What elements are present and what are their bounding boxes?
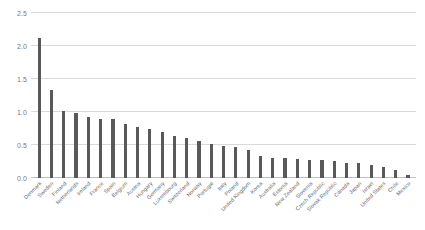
bar[interactable] <box>259 156 262 178</box>
bar-slot <box>316 13 328 178</box>
bar-slot <box>267 13 279 178</box>
bar[interactable] <box>87 117 90 178</box>
x-label-slot: Mexico <box>402 179 414 230</box>
bar-slot <box>205 13 217 178</box>
bar[interactable] <box>222 146 225 178</box>
bar[interactable] <box>406 175 409 178</box>
y-axis-tick-label: 0.5 <box>17 142 27 149</box>
bar[interactable] <box>124 124 127 178</box>
bar-slot <box>144 13 156 178</box>
y-axis-tick-label: 1.0 <box>17 109 27 116</box>
y-axis-tick-label: 1.5 <box>17 76 27 83</box>
bar-slot <box>94 13 106 178</box>
bar-slot <box>340 13 352 178</box>
bar-slot <box>58 13 70 178</box>
bar[interactable] <box>247 150 250 178</box>
bar[interactable] <box>136 127 139 178</box>
bar-slot <box>230 13 242 178</box>
bar[interactable] <box>148 129 151 179</box>
bar[interactable] <box>173 136 176 178</box>
bar-slot <box>242 13 254 178</box>
bar-slot <box>377 13 389 178</box>
bar[interactable] <box>271 158 274 178</box>
bar[interactable] <box>185 138 188 178</box>
bar-slot <box>82 13 94 178</box>
bar-slot <box>70 13 82 178</box>
bar[interactable] <box>62 111 65 178</box>
bar-slot <box>291 13 303 178</box>
bar-slot <box>328 13 340 178</box>
bar[interactable] <box>38 38 41 178</box>
bar-slot <box>156 13 168 178</box>
bar[interactable] <box>50 90 53 178</box>
bar[interactable] <box>320 160 323 178</box>
bar[interactable] <box>296 159 299 178</box>
bar[interactable] <box>308 160 311 178</box>
bar-slot <box>217 13 229 178</box>
bar[interactable] <box>333 161 336 178</box>
bar-slot <box>279 13 291 178</box>
x-axis-labels: DenmarkSwedenFinlandNetherlandsIrelandFr… <box>31 179 416 230</box>
bar-slot <box>353 13 365 178</box>
bar[interactable] <box>111 119 114 178</box>
plot-area <box>31 13 416 178</box>
bar-slot <box>402 13 414 178</box>
bar[interactable] <box>74 113 77 178</box>
bar-slot <box>181 13 193 178</box>
bar-slot <box>254 13 266 178</box>
bar[interactable] <box>382 167 385 178</box>
bar[interactable] <box>99 119 102 178</box>
y-axis: 0.00.51.01.52.02.5 <box>0 13 31 178</box>
bar-slot <box>107 13 119 178</box>
bar[interactable] <box>210 144 213 178</box>
bar[interactable] <box>370 165 373 178</box>
bar-slot <box>365 13 377 178</box>
bar[interactable] <box>161 132 164 178</box>
y-axis-tick-label: 0.0 <box>17 175 27 182</box>
bar-slot <box>33 13 45 178</box>
bar-series <box>31 13 416 178</box>
bar[interactable] <box>345 163 348 178</box>
bar[interactable] <box>283 158 286 178</box>
bar-slot <box>131 13 143 178</box>
bar-slot <box>390 13 402 178</box>
bar-chart: 0.00.51.01.52.02.5 DenmarkSwedenFinlandN… <box>0 0 425 230</box>
y-axis-tick-label: 2.5 <box>17 10 27 17</box>
bar-slot <box>193 13 205 178</box>
bar-slot <box>119 13 131 178</box>
bar-slot <box>304 13 316 178</box>
bar[interactable] <box>394 170 397 178</box>
bar[interactable] <box>234 147 237 178</box>
bar[interactable] <box>197 141 200 178</box>
bar-slot <box>168 13 180 178</box>
y-axis-tick-label: 2.0 <box>17 43 27 50</box>
bar[interactable] <box>357 163 360 178</box>
bar-slot <box>45 13 57 178</box>
